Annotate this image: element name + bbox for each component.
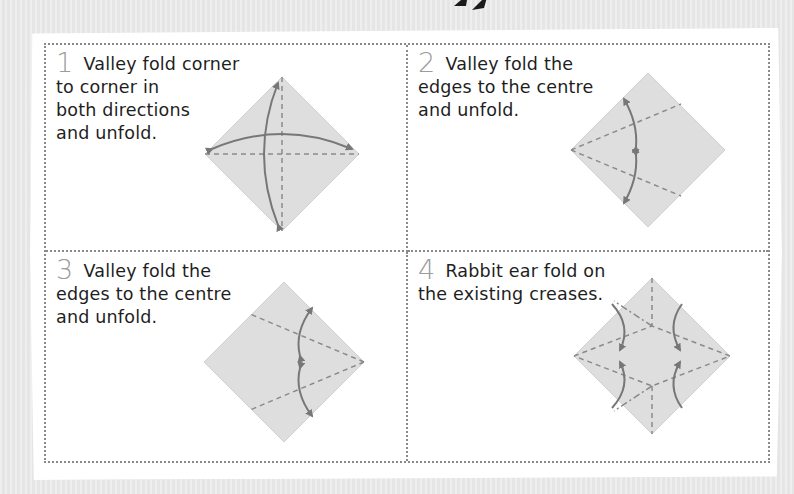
step-2-line-3: and unfold. [418,99,594,122]
step-2-diagram [570,71,730,231]
step-4-number: 4 [418,254,435,285]
paper-square-icon [571,73,725,227]
step-2-instructions: 2Valley fold the edges to the centre and… [418,51,594,122]
step-3-number: 3 [56,254,73,285]
step-4-diagram [570,276,734,440]
step-3-diagram [202,278,366,446]
step-2-number: 2 [418,47,435,78]
step-3-line-1: Valley fold the [83,261,211,281]
step-2-panel: 2Valley fold the edges to the centre and… [408,45,768,252]
step-1-panel: 1Valley fold corner to corner in both di… [46,45,408,252]
step-4-panel: 4Rabbit ear fold on the existing creases… [408,252,768,461]
steps-grid: 1Valley fold corner to corner in both di… [44,43,770,463]
step-2-line-2: edges to the centre [418,76,594,99]
step-1-diagram [202,75,362,235]
step-2-line-1: Valley fold the [445,54,573,74]
paper-square-icon [204,282,364,442]
step-1-number: 1 [56,47,73,78]
step-3-panel: 3Valley fold the edges to the centre and… [46,252,408,461]
decorative-arrow-icon [452,0,502,16]
step-1-line-1: Valley fold corner [83,54,239,74]
paper-square-icon [574,278,730,434]
